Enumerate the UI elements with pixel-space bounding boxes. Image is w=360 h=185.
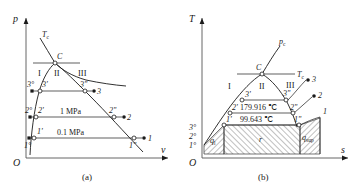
panel-pv-diagram: p v O Tc C I II III 3°	[0, 0, 180, 185]
point-label-1deg: 1°	[24, 141, 32, 150]
ts-svg: T s O ql r qsup pc C	[180, 0, 360, 185]
x-axis-label-v: v	[161, 144, 166, 155]
point-label-3dprime-b: 3"	[282, 89, 291, 98]
point-label-1prime: 1'	[37, 127, 43, 136]
point-label-2prime-b: 2'	[232, 103, 238, 112]
point-2dprime-marker	[112, 115, 116, 119]
caption-a: (a)	[82, 172, 92, 182]
pv-axes	[24, 18, 168, 160]
isobar-row-2-b: 2' 179.916 ℃ 2" 2	[228, 91, 322, 115]
point-3-marker	[92, 89, 96, 93]
region-label-II-b: II	[259, 81, 265, 91]
y-axis-label-T: T	[189, 13, 196, 24]
critical-pressure-label: pc	[278, 37, 286, 47]
isobar-row-3: 3° 3' 3" 3	[26, 80, 101, 96]
axis-tick-2deg: 2°	[189, 132, 197, 141]
temperature-label-99: 99.643 ℃	[240, 115, 273, 124]
figure-root: p v O Tc C I II III 3°	[0, 0, 360, 185]
p-axis-arrow	[24, 18, 29, 24]
point-label-3dprime: 3"	[79, 80, 88, 89]
panel-ts-diagram: T s O ql r qsup pc C	[180, 0, 360, 185]
origin-label-b: O	[189, 157, 196, 168]
point-3prime-marker-b	[240, 98, 244, 102]
point-label-2prime: 2'	[38, 106, 44, 115]
point-label-3prime-b: 3'	[244, 90, 251, 99]
isobar-row-2: 2° 2' 2" 2 1 MPa	[25, 106, 131, 122]
critical-point-marker-b	[260, 72, 264, 76]
pressure-label-01mpa: 0.1 MPa	[57, 128, 85, 137]
isobar-row-1: 1° 1' 1" 1 0.1 MPa	[24, 127, 152, 150]
x-axis-label-s: s	[341, 144, 345, 155]
point-label-1dprime: 1"	[129, 141, 137, 150]
y-axis-label-p: p	[12, 13, 18, 24]
point-label-2: 2	[127, 113, 131, 122]
point-label-2dprime-b: 2"	[290, 103, 298, 112]
point-3-marker-b	[306, 78, 310, 82]
point-label-2deg: 2°	[25, 106, 33, 115]
point-label-1-b: 1	[323, 107, 327, 116]
point-1-marker	[142, 136, 146, 140]
critical-pressure-curve	[262, 46, 280, 74]
v-axis-arrow	[162, 156, 168, 161]
point-label-3deg: 3°	[26, 80, 35, 89]
point-label-2-b: 2	[318, 91, 322, 100]
axis-tick-3deg: 3°	[188, 123, 197, 132]
critical-point-marker	[53, 61, 57, 65]
T-axis-arrow	[200, 18, 205, 24]
point-3prime-marker	[38, 89, 42, 93]
region-label-I-a: I	[38, 68, 41, 78]
critical-point-label-b: C	[256, 63, 262, 72]
point-label-1dprime-b: 1"	[294, 115, 302, 124]
critical-point-label-a: C	[57, 52, 63, 61]
point-1prime-marker	[32, 136, 36, 140]
point-label-3: 3	[96, 87, 101, 96]
critical-isotherm-label-a: Tc	[42, 30, 49, 40]
point-2deg-marker	[28, 115, 31, 118]
temperature-label-179: 179.916 ℃	[240, 103, 277, 112]
point-3dprime-marker-b	[284, 98, 288, 102]
axis-tick-1deg: 1°	[189, 141, 197, 150]
point-3deg-marker	[30, 89, 33, 92]
pv-svg: p v O Tc C I II III 3°	[0, 0, 180, 185]
region-label-III-a: III	[78, 68, 87, 78]
s-axis-arrow	[342, 156, 348, 161]
caption-b: (b)	[258, 172, 269, 182]
region-label-II-a: II	[54, 68, 60, 78]
origin-label-a: O	[13, 157, 20, 168]
critical-isotherm-label-b: Tc	[297, 70, 304, 80]
point-label-1prime-b: 1'	[226, 115, 232, 124]
point-2prime-marker	[34, 115, 38, 119]
point-label-1: 1	[148, 134, 152, 143]
point-label-3-b: 3	[311, 75, 316, 84]
point-1deg-marker	[27, 136, 30, 139]
point-2-marker-b	[312, 94, 316, 98]
pressure-label-1mpa: 1 MPa	[60, 107, 82, 116]
point-2-marker	[122, 115, 126, 119]
point-label-2dprime: 2"	[109, 106, 117, 115]
point-3dprime-marker	[83, 89, 87, 93]
point-1dprime-marker	[132, 136, 136, 140]
region-label-I-b: I	[228, 81, 231, 91]
point-label-3prime: 3'	[41, 80, 48, 89]
